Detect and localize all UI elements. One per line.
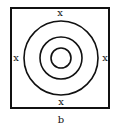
marker-right: x <box>102 53 108 63</box>
square-border <box>11 8 109 108</box>
marker-bottom: x <box>58 97 64 107</box>
marker-left: x <box>13 53 19 63</box>
inner-ring <box>51 48 71 68</box>
marker-top: x <box>57 8 63 18</box>
concentric-rings-diagram <box>0 0 118 132</box>
outer-ring <box>24 21 98 95</box>
middle-ring <box>40 37 82 79</box>
caption: b <box>58 115 64 125</box>
